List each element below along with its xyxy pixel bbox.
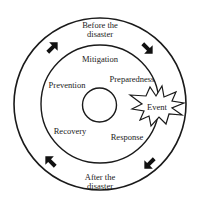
event-label: Event: [147, 102, 167, 112]
before-disaster-line2: disaster: [87, 29, 113, 39]
arrow-top-right-icon: [139, 40, 157, 58]
arrow-top-left-icon: [44, 38, 62, 56]
phase-response: Response: [111, 132, 144, 142]
phase-preparedness: Preparedness: [110, 74, 155, 84]
center-circle: [83, 88, 117, 122]
phase-recovery: Recovery: [54, 126, 87, 136]
phase-prevention: Prevention: [49, 80, 87, 90]
after-disaster-line2: disaster: [87, 181, 113, 191]
disaster-cycle-diagram: Before the disaster Mitigation Preparedn…: [0, 0, 200, 208]
arrow-bottom-left-icon: [41, 152, 59, 170]
phase-mitigation: Mitigation: [82, 54, 119, 64]
